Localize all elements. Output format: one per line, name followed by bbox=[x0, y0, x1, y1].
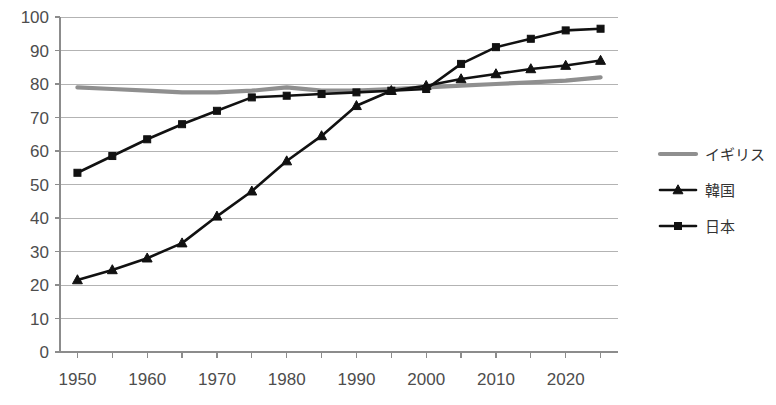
data-point-marker-square bbox=[318, 91, 325, 98]
y-tick-label: 0 bbox=[40, 343, 49, 362]
legend-label: 日本 bbox=[705, 218, 735, 236]
x-tick-label: 1960 bbox=[128, 370, 166, 389]
gridlines-group bbox=[60, 17, 618, 352]
data-point-marker-square bbox=[527, 35, 534, 42]
x-tick-label: 1980 bbox=[268, 370, 306, 389]
x-tick-label: 2010 bbox=[477, 370, 515, 389]
data-point-marker-square bbox=[675, 223, 682, 230]
x-tick-label: 2020 bbox=[547, 370, 585, 389]
x-tick-label: 1990 bbox=[338, 370, 376, 389]
x-tick-label: 1970 bbox=[198, 370, 236, 389]
chart-legend: イギリス韓国日本 bbox=[660, 146, 765, 236]
series-2 bbox=[74, 25, 604, 176]
legend-item-2[interactable]: 日本 bbox=[660, 218, 735, 236]
data-point-marker-square bbox=[74, 169, 81, 176]
legend-item-0[interactable]: イギリス bbox=[660, 146, 765, 164]
series-line bbox=[77, 77, 600, 92]
y-tick-label: 60 bbox=[30, 142, 49, 161]
data-point-marker-square bbox=[109, 153, 116, 160]
y-tick-label: 50 bbox=[30, 176, 49, 195]
xtick-labels-group: 19501960197019801990200020102020 bbox=[59, 370, 585, 389]
legend-item-1[interactable]: 韓国 bbox=[660, 182, 735, 200]
legend-label: イギリス bbox=[705, 146, 765, 164]
xtick-marks-group bbox=[77, 352, 600, 358]
data-point-marker-square bbox=[423, 86, 430, 93]
x-tick-label: 1950 bbox=[59, 370, 97, 389]
series-group bbox=[72, 25, 605, 284]
data-point-marker-square bbox=[492, 44, 499, 51]
y-tick-label: 90 bbox=[30, 42, 49, 61]
data-point-marker-square bbox=[283, 92, 290, 99]
data-point-marker-square bbox=[458, 60, 465, 67]
legend-label: 韓国 bbox=[705, 182, 735, 200]
series-0 bbox=[77, 77, 600, 92]
x-tick-label: 2000 bbox=[407, 370, 445, 389]
chart-container: 0102030405060708090100 19501960197019801… bbox=[0, 0, 776, 405]
y-tick-label: 20 bbox=[30, 276, 49, 295]
line-chart: 0102030405060708090100 19501960197019801… bbox=[0, 0, 776, 405]
ytick-labels-group: 0102030405060708090100 bbox=[21, 8, 60, 362]
data-point-marker-square bbox=[388, 87, 395, 94]
y-tick-label: 30 bbox=[30, 243, 49, 262]
data-point-marker-square bbox=[248, 94, 255, 101]
data-point-marker-square bbox=[562, 27, 569, 34]
data-point-marker-square bbox=[179, 121, 186, 128]
y-tick-label: 10 bbox=[30, 310, 49, 329]
data-point-marker-square bbox=[353, 89, 360, 96]
y-tick-label: 80 bbox=[30, 75, 49, 94]
y-tick-label: 70 bbox=[30, 109, 49, 128]
data-point-marker-square bbox=[144, 136, 151, 143]
y-tick-label: 100 bbox=[21, 8, 49, 27]
data-point-marker-square bbox=[213, 107, 220, 114]
data-point-marker-square bbox=[597, 25, 604, 32]
y-tick-label: 40 bbox=[30, 209, 49, 228]
